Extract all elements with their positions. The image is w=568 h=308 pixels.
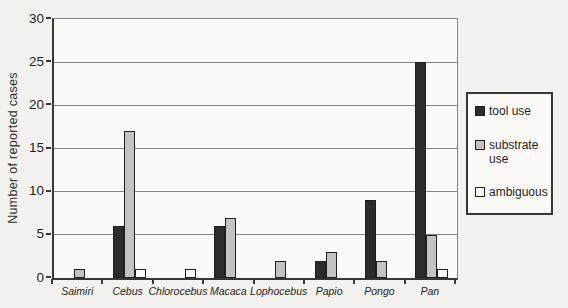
x-category-label-pan: Pan — [420, 286, 439, 297]
x-tick-mark-7 — [404, 279, 406, 284]
x-category-label-lophocebus: Lophocebus — [250, 286, 307, 297]
y-tick-mark-25 — [46, 60, 51, 62]
y-tick-mark-5 — [46, 233, 51, 235]
x-tick-mark-3 — [202, 279, 204, 284]
x-category-label-macaca: Macaca — [210, 286, 247, 297]
y-tick-label-10: 10 — [10, 184, 44, 198]
y-tick-mark-30 — [46, 17, 51, 19]
bar-ambiguous-pan — [437, 269, 448, 278]
y-tick-mark-10 — [46, 190, 51, 192]
bar-tool-use-macaca — [214, 226, 225, 278]
x-tick-mark-5 — [303, 279, 305, 284]
y-tick-label-0: 0 — [10, 271, 44, 285]
bar-substrate-use-papio — [326, 252, 337, 278]
legend-item-ambiguous: ambiguous — [475, 186, 549, 200]
y-tick-mark-20 — [46, 103, 51, 105]
x-category-label-saimiri: Saimiri — [61, 286, 93, 297]
x-tick-mark-6 — [353, 279, 355, 284]
x-category-label-pongo: Pongo — [364, 286, 394, 297]
gridline-10 — [54, 191, 457, 192]
y-tick-label-30: 30 — [10, 12, 44, 26]
legend-label-ambiguous: ambiguous — [489, 186, 548, 200]
legend-label-tool-use: tool use — [489, 105, 531, 119]
legend: tool usesubstrate useambiguous — [466, 92, 553, 215]
bar-ambiguous-chlorocebus — [185, 269, 196, 278]
x-tick-mark-2 — [152, 279, 154, 284]
bar-ambiguous-cebus — [135, 269, 146, 278]
legend-item-tool-use: tool use — [475, 105, 549, 119]
bar-substrate-use-saimiri — [74, 269, 85, 278]
bar-substrate-use-lophocebus — [275, 261, 286, 278]
x-category-label-cebus: Cebus — [112, 286, 142, 297]
bar-substrate-use-pan — [426, 235, 437, 278]
x-tick-mark-0 — [51, 279, 53, 284]
x-category-label-papio: Papio — [316, 286, 343, 297]
legend-swatch-substrate-use — [475, 140, 485, 150]
x-tick-mark-8 — [454, 279, 456, 284]
legend-label-substrate-use: substrate use — [489, 139, 549, 167]
bar-substrate-use-macaca — [225, 218, 236, 278]
bar-substrate-use-cebus — [124, 131, 135, 278]
gridline-25 — [54, 62, 457, 63]
plot-area — [52, 18, 458, 280]
y-tick-mark-15 — [46, 147, 51, 149]
bar-tool-use-papio — [315, 261, 326, 278]
bar-substrate-use-pongo — [376, 261, 387, 278]
y-tick-label-20: 20 — [10, 98, 44, 112]
y-tick-mark-0 — [46, 276, 51, 278]
legend-swatch-ambiguous — [475, 187, 485, 197]
bar-tool-use-pan — [415, 62, 426, 278]
gridline-15 — [54, 148, 457, 149]
x-category-label-chlorocebus: Chlorocebus — [148, 286, 207, 297]
bar-tool-use-cebus — [113, 226, 124, 278]
legend-swatch-tool-use — [475, 106, 485, 116]
x-tick-mark-4 — [253, 279, 255, 284]
bar-tool-use-pongo — [365, 200, 376, 278]
y-tick-label-25: 25 — [10, 55, 44, 69]
x-tick-mark-1 — [101, 279, 103, 284]
y-tick-label-5: 5 — [10, 227, 44, 241]
legend-item-substrate-use: substrate use — [475, 139, 549, 167]
gridline-20 — [54, 105, 457, 106]
scanned-bar-chart-figure: Number of reported cases 051015202530Sai… — [0, 0, 568, 308]
y-tick-label-15: 15 — [10, 141, 44, 155]
